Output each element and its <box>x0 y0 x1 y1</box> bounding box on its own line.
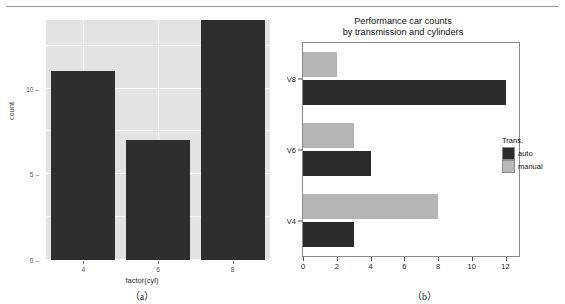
chart-b-bar <box>303 123 354 149</box>
chart-b-bar <box>303 52 337 78</box>
chart-b-subtitle: by transmission and cylinders <box>284 27 522 38</box>
chart-b-y-tick-mark <box>298 220 302 221</box>
legend-swatch-auto-icon <box>502 147 515 160</box>
chart-b-x-tick-label: 10 <box>468 262 476 271</box>
chart-b-x-axis-ticks: 024681012 <box>302 257 520 277</box>
chart-b-y-axis-ticks: V8V6V4 <box>284 42 302 257</box>
chart-b-bar <box>303 151 371 177</box>
legend-swatch-manual-icon <box>502 160 515 173</box>
chart-a-x-tick-label: 8 <box>231 266 235 273</box>
chart-b-x-tick-label: 4 <box>368 262 372 271</box>
chart-b-x-tick-label: 6 <box>402 262 406 271</box>
legend-label-auto: auto <box>518 149 533 158</box>
chart-a-bar <box>51 71 115 260</box>
chart-a-x-tick-mark <box>83 261 84 264</box>
chart-b-x-tick-mark <box>404 257 405 261</box>
chart-b-title-block: Performance car counts by transmission a… <box>284 16 522 38</box>
chart-panel-b: Performance car counts by transmission a… <box>284 12 565 304</box>
chart-a-y-axis-ticks: 0–5–10– <box>18 20 44 260</box>
chart-a-y-tick-label: 5– <box>30 171 39 178</box>
chart-b-x-tick-label: 12 <box>501 262 509 271</box>
chart-panel-a: count 0–5–10– 468 factor(cyl) （a） <box>6 12 278 304</box>
chart-b-x-tick-mark <box>303 257 304 261</box>
chart-b-y-tick-label: V8 <box>287 74 296 83</box>
chart-b-plot-frame <box>302 42 520 257</box>
cut-off-figure-caption <box>120 300 460 304</box>
chart-a-y-tick-label: 0– <box>30 257 39 264</box>
chart-b-bar <box>303 80 506 106</box>
chart-b-x-tick-mark <box>472 257 473 261</box>
chart-a-x-tick-label: 6 <box>156 266 160 273</box>
chart-a-bar <box>126 140 190 260</box>
figure-container: count 0–5–10– 468 factor(cyl) （a） Perfor… <box>0 10 565 304</box>
chart-b-y-tick-label: V4 <box>287 216 296 225</box>
chart-b-title: Performance car counts <box>284 16 522 27</box>
chart-a-bar <box>201 20 265 260</box>
chart-b-x-tick-label: 8 <box>436 262 440 271</box>
chart-a-x-tick-mark <box>233 261 234 264</box>
chart-b-legend: Trans. auto manual <box>502 136 562 173</box>
chart-b-y-tick-label: V6 <box>287 145 296 154</box>
legend-item-auto: auto <box>502 147 562 160</box>
chart-a-x-tick-label: 4 <box>82 266 86 273</box>
legend-title: Trans. <box>502 136 562 145</box>
legend-item-manual: manual <box>502 160 562 173</box>
chart-b-x-tick-mark <box>337 257 338 261</box>
top-divider-rule <box>6 6 559 7</box>
chart-b-plot-area <box>303 43 519 256</box>
chart-b-x-tick-label: 0 <box>301 262 305 271</box>
chart-a-x-tick-mark <box>158 261 159 264</box>
chart-b-x-tick-label: 2 <box>335 262 339 271</box>
chart-a-plot-area <box>46 20 270 260</box>
chart-b-bar <box>303 222 354 248</box>
chart-a-y-tick-label: 10– <box>26 85 39 92</box>
chart-b-y-tick-mark <box>298 149 302 150</box>
chart-b-x-tick-mark <box>371 257 372 261</box>
chart-b-y-tick-mark <box>298 78 302 79</box>
chart-a-x-axis-label: factor(cyl) <box>6 276 278 285</box>
chart-a-y-axis-label: count <box>8 102 15 120</box>
legend-label-manual: manual <box>518 162 543 171</box>
chart-b-bar <box>303 194 438 220</box>
chart-b-x-tick-mark <box>506 257 507 261</box>
chart-b-x-tick-mark <box>438 257 439 261</box>
